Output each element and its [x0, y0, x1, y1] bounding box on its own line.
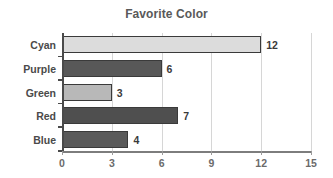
category-label-purple: Purple: [23, 63, 56, 75]
value-label-green: 3: [117, 87, 123, 99]
x-axis-label-6: 6: [150, 157, 174, 169]
value-label-cyan: 12: [266, 39, 278, 51]
x-tick-6: [162, 151, 163, 155]
chart-title: Favorite Color: [0, 7, 333, 21]
x-tick-15: [311, 151, 312, 155]
gridline-x-12: [261, 33, 262, 151]
x-axis-line: [62, 151, 312, 153]
bar-purple[interactable]: [62, 60, 162, 77]
category-label-green: Green: [26, 87, 56, 99]
x-axis-label-0: 0: [50, 157, 74, 169]
category-label-blue: Blue: [33, 134, 56, 146]
x-tick-9: [211, 151, 212, 155]
x-axis-label-9: 9: [199, 157, 223, 169]
y-axis-line: [62, 33, 64, 152]
category-label-red: Red: [36, 110, 56, 122]
x-tick-0: [62, 151, 63, 155]
value-label-blue: 4: [133, 134, 139, 146]
x-axis-label-12: 12: [249, 157, 273, 169]
bar-chart: Favorite Color 03691215Cyan12Purple6Gree…: [0, 0, 333, 178]
bar-cyan[interactable]: [62, 36, 261, 53]
value-label-red: 7: [183, 110, 189, 122]
gridline-x-15: [311, 33, 312, 151]
bar-red[interactable]: [62, 107, 178, 124]
x-tick-12: [261, 151, 262, 155]
x-axis-label-3: 3: [100, 157, 124, 169]
bar-blue[interactable]: [62, 131, 128, 148]
value-label-purple: 6: [167, 63, 173, 75]
x-axis-label-15: 15: [299, 157, 323, 169]
x-tick-3: [112, 151, 113, 155]
category-label-cyan: Cyan: [30, 39, 56, 51]
bar-green[interactable]: [62, 84, 112, 101]
